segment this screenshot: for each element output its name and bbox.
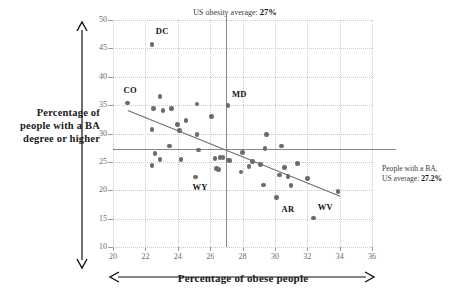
x-tick-label: 30 <box>265 252 285 261</box>
y-tick-label: 45 <box>89 43 107 52</box>
x-tick-label: 24 <box>168 252 188 261</box>
hline-annotation-text: US average: <box>382 174 421 183</box>
data-point[interactable] <box>196 148 201 153</box>
hline-annotation-value: 27.2% <box>421 174 442 183</box>
gridline-horizontal <box>113 77 372 78</box>
y-tick-label: 40 <box>89 72 107 81</box>
data-point[interactable] <box>305 176 310 181</box>
y-tick-mark <box>108 190 113 191</box>
y-tick-mark <box>108 134 113 135</box>
data-point[interactable] <box>175 122 180 127</box>
point-label-wv: WV <box>318 202 333 212</box>
point-label-wy: WY <box>193 182 208 192</box>
data-point[interactable] <box>263 146 268 151</box>
y-tick-label: 25 <box>89 157 107 166</box>
data-point[interactable] <box>209 114 214 119</box>
data-point[interactable] <box>167 144 172 149</box>
data-point[interactable] <box>258 162 263 167</box>
y-axis-arrow-icon <box>75 20 89 270</box>
chart-canvas: Percentage of people with a BA degree or… <box>0 0 462 297</box>
plot-area: 202224262830323436504540353025201510CODC… <box>113 20 372 247</box>
x-tick-label: 26 <box>200 252 220 261</box>
data-point[interactable] <box>177 128 182 133</box>
data-point[interactable] <box>250 159 255 164</box>
data-point-dc[interactable] <box>150 42 155 47</box>
gridline-horizontal <box>113 48 372 49</box>
data-point[interactable] <box>169 106 174 111</box>
data-point[interactable] <box>286 174 291 179</box>
y-tick-label: 15 <box>89 214 107 223</box>
hline-annotation-line1: People with a BA, <box>382 164 438 173</box>
x-tick-label: 22 <box>135 252 155 261</box>
data-point[interactable] <box>150 163 155 168</box>
point-label-dc: DC <box>156 26 169 36</box>
data-point[interactable] <box>221 155 226 160</box>
y-tick-label: 20 <box>89 185 107 194</box>
data-point[interactable] <box>150 127 155 132</box>
point-label-md: MD <box>232 89 247 99</box>
data-point[interactable] <box>161 108 166 113</box>
data-point[interactable] <box>264 132 269 137</box>
hline-annotation: People with a BA, US average: 27.2% <box>382 164 462 184</box>
y-tick-mark <box>108 20 113 21</box>
gridline-vertical <box>372 20 373 247</box>
x-tick-label: 20 <box>103 252 123 261</box>
x-axis-title: Percentage of obese people <box>118 272 368 284</box>
x-tick-label: 32 <box>297 252 317 261</box>
data-point[interactable] <box>184 118 189 123</box>
point-label-ar: AR <box>281 204 294 214</box>
data-point[interactable] <box>277 173 282 178</box>
y-tick-mark <box>108 162 113 163</box>
x-tick-label: 34 <box>330 252 350 261</box>
data-point[interactable] <box>247 164 252 169</box>
y-tick-mark <box>108 219 113 220</box>
gridline-horizontal <box>113 190 372 191</box>
us-obesity-average-line <box>226 14 227 247</box>
gridline-horizontal <box>113 134 372 135</box>
y-tick-mark <box>108 105 113 106</box>
data-point-wv[interactable] <box>311 216 316 221</box>
vline-annotation-value: 27% <box>260 7 277 17</box>
data-point[interactable] <box>336 189 341 194</box>
data-point[interactable] <box>158 94 163 99</box>
data-point[interactable] <box>195 132 200 137</box>
data-point[interactable] <box>153 151 158 156</box>
y-tick-label: 50 <box>89 15 107 24</box>
data-point[interactable] <box>279 144 284 149</box>
data-point[interactable] <box>240 150 245 155</box>
gridline-horizontal <box>113 247 372 248</box>
y-tick-label: 35 <box>89 100 107 109</box>
data-point-md[interactable] <box>226 103 231 108</box>
x-tick-label: 36 <box>362 252 382 261</box>
y-tick-mark <box>108 247 113 248</box>
y-tick-mark <box>108 77 113 78</box>
data-point[interactable] <box>158 157 163 162</box>
x-tick-mark <box>372 247 373 251</box>
data-point-ar[interactable] <box>274 195 279 200</box>
data-point[interactable] <box>213 156 218 161</box>
point-label-co: CO <box>124 85 137 95</box>
data-point-co[interactable] <box>125 101 130 106</box>
data-point[interactable] <box>261 183 266 188</box>
y-tick-label: 10 <box>89 242 107 251</box>
y-tick-label: 30 <box>89 129 107 138</box>
data-point[interactable] <box>151 106 156 111</box>
data-point[interactable] <box>216 167 221 172</box>
gridline-horizontal <box>113 20 372 21</box>
gridline-horizontal <box>113 219 372 220</box>
y-tick-mark <box>108 48 113 49</box>
x-tick-label: 28 <box>233 252 253 261</box>
data-point[interactable] <box>282 165 287 170</box>
data-point[interactable] <box>227 158 232 163</box>
data-point[interactable] <box>295 161 300 166</box>
data-point-wy[interactable] <box>193 175 198 180</box>
vline-annotation: US obesity average: 27% <box>150 7 320 17</box>
data-point[interactable] <box>179 157 184 162</box>
data-point[interactable] <box>289 183 294 188</box>
